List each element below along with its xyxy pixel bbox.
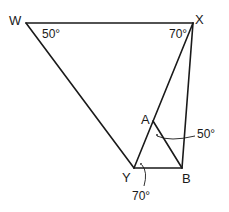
vertex-label-w: W: [9, 13, 22, 28]
angle-label-x: 70°: [169, 27, 187, 41]
segment-ab: [153, 121, 182, 168]
angle-y-marker: [140, 163, 142, 165]
angle-label-y: 70°: [132, 189, 150, 203]
angle-label-a: 50°: [197, 127, 215, 141]
geometry-diagram: W X A Y B 50° 70° 50° 70°: [0, 0, 229, 212]
vertex-label-x: X: [195, 12, 204, 27]
segment-wy: [26, 23, 134, 168]
vertex-label-a: A: [141, 112, 150, 127]
vertex-label-y: Y: [122, 170, 131, 185]
vertex-label-b: B: [182, 171, 191, 186]
angle-a-marker: [156, 134, 158, 136]
angle-label-w: 50°: [42, 27, 60, 41]
